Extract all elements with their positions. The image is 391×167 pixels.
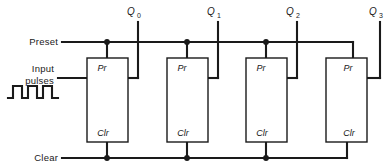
input-pulses-label-line2: pulses [25,75,54,86]
junction-dot-clear-ff1 [184,155,190,161]
ripple-counter-diagram: Pr Clr Pr Clr Pr Clr Pr Clr Q 0 Q 1 Q 2 … [0,0,391,167]
input-pulse-train-icon [8,86,58,98]
junction-dot-preset-ff0 [104,39,110,45]
signal-labels: Preset Input pulses Clear [25,36,58,163]
pin-label-pr-1: Pr [178,63,188,73]
output-labels: Q 0 Q 1 Q 2 Q 3 [127,6,383,19]
flip-flop-boxes [87,58,367,142]
output-sub-q2: 2 [296,12,300,19]
pin-label-clr-1: Clr [177,128,189,138]
output-sub-q0: 0 [137,12,141,19]
junction-dot-clear-ff2 [263,155,269,161]
pin-label-pr-0: Pr [98,63,108,73]
output-sub-q3: 3 [379,12,383,19]
schematic-canvas: Pr Clr Pr Clr Pr Clr Pr Clr Q 0 Q 1 Q 2 … [0,0,391,167]
output-label-q0: Q [127,6,135,17]
junction-dot-clear-ff0 [104,155,110,161]
output-sub-q1: 1 [217,12,221,19]
clear-bus [62,142,347,161]
pin-label-pr-3: Pr [344,63,354,73]
pin-label-clr-2: Clr [256,128,268,138]
preset-bus [62,39,353,58]
clear-label: Clear [34,152,58,163]
output-label-q2: Q [286,6,294,17]
output-label-q1: Q [207,6,215,17]
input-pulses-label-line1: Input [32,63,54,74]
preset-label: Preset [29,36,58,47]
junction-dot-preset-ff2 [263,39,269,45]
junction-dot-preset-ff1 [184,39,190,45]
pin-labels: Pr Clr Pr Clr Pr Clr Pr Clr [97,63,355,138]
pin-label-pr-2: Pr [257,63,267,73]
pin-label-clr-3: Clr [343,128,355,138]
output-label-q3: Q [369,6,377,17]
pulse-waveform-path [8,86,58,98]
pin-label-clr-0: Clr [97,128,109,138]
